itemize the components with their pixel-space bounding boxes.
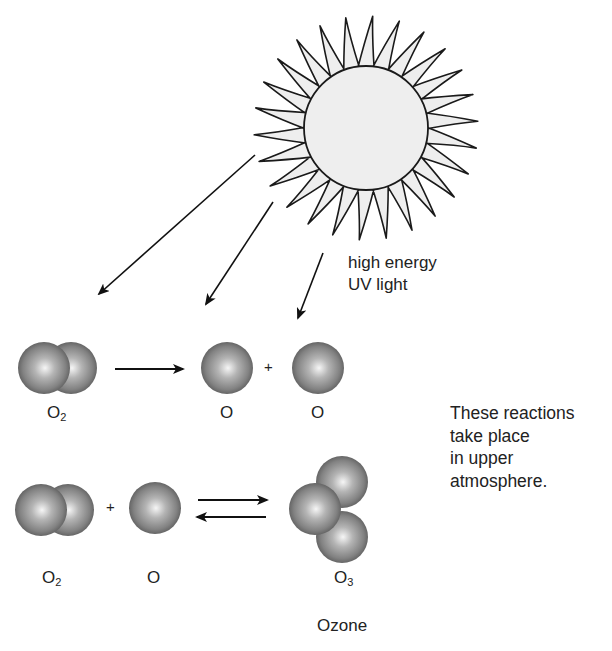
plus-sign-1: +: [264, 357, 273, 377]
sun-icon: [254, 16, 478, 240]
sun-disc: [304, 66, 428, 190]
o2-symbol: O: [47, 403, 60, 422]
o-label-2: O: [311, 403, 324, 423]
o2-label-1: O2: [47, 403, 66, 427]
o2-symbol: O: [42, 568, 55, 587]
atmosphere-note: These reactions take place in upper atmo…: [450, 402, 575, 492]
o2-subscript: 2: [60, 411, 66, 423]
o3-symbol: O: [334, 568, 347, 587]
uv-ray-arrow-3: [298, 253, 323, 318]
note-line-1: These reactions: [450, 402, 575, 425]
plus-sign-2: +: [106, 497, 115, 517]
o2-molecule-2: [15, 484, 94, 536]
o3-molecule: [289, 456, 368, 563]
uv-light-label: high energy UV light: [348, 252, 437, 296]
ozone-label: Ozone: [317, 616, 367, 636]
o2-molecule-1: [18, 342, 97, 394]
equilibrium-arrows-icon: [197, 500, 267, 517]
uv-ray-arrow-1: [99, 155, 255, 294]
uv-label-line-2: UV light: [348, 274, 437, 296]
o-atom-1: [201, 342, 253, 394]
ozone-formation-diagram: [0, 0, 612, 651]
o-label-1: O: [220, 403, 233, 423]
o2-label-2: O2: [42, 568, 61, 592]
note-line-4: atmosphere.: [450, 470, 575, 493]
o3-subscript: 3: [347, 576, 353, 588]
o3-label: O3: [334, 568, 353, 592]
o-label-3: O: [147, 568, 160, 588]
note-line-3: in upper: [450, 447, 575, 470]
reaction-1: [18, 342, 344, 394]
uv-ray-arrow-2: [206, 202, 273, 304]
uv-label-line-1: high energy: [348, 252, 437, 274]
o-atom-3: [129, 482, 181, 534]
note-line-2: take place: [450, 425, 575, 448]
o2-subscript: 2: [55, 576, 61, 588]
reaction-2: [15, 456, 368, 563]
o-atom-2: [292, 342, 344, 394]
